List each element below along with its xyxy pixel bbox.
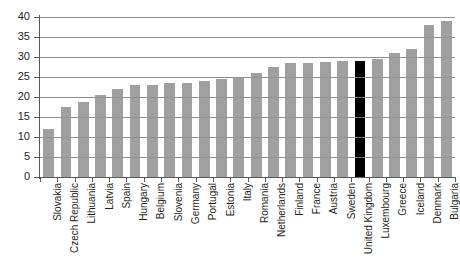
x-tick-label: Portugal [208,183,218,220]
bar [389,53,400,177]
bar [372,59,383,177]
x-tick-mark [40,178,41,182]
x-tick-mark [196,178,197,182]
x-tick-label: Lithuania [87,183,97,224]
x-tick-label: Czech Republic [70,183,80,253]
x-tick-mark [420,178,421,182]
x-tick-label: Latvia [105,183,115,210]
bar [268,67,279,177]
bar [216,79,227,177]
bar [441,21,452,177]
bar [199,81,210,177]
chart-title-cropped [0,0,460,10]
x-tick-label: Slovenia [174,183,184,221]
bar [78,102,89,177]
x-tick-label: Bulgaria [450,183,460,220]
y-tick-label: 30 [0,51,30,62]
x-tick-mark [299,178,300,182]
bar [251,73,262,177]
x-tick-mark [403,178,404,182]
bar-chart: 0510152025303540 SlovakiaCzech RepublicL… [0,0,460,264]
x-tick-mark [351,178,352,182]
y-tick-label: 15 [0,111,30,122]
y-tick-label: 10 [0,131,30,142]
x-tick-mark [334,178,335,182]
bar [95,95,106,177]
x-tick-mark [386,178,387,182]
x-tick-mark [455,178,456,182]
x-tick-label: Denmark [433,183,443,224]
bar-series [40,17,455,177]
y-tick-label: 0 [0,171,30,182]
y-tick-label: 20 [0,91,30,102]
x-tick-mark [178,178,179,182]
y-tick-label: 25 [0,71,30,82]
x-tick-label: Slovakia [53,183,63,221]
x-tick-mark [92,178,93,182]
x-tick-mark [282,178,283,182]
bar [233,78,244,177]
bar [337,61,348,177]
x-tick-label: Spain [122,183,132,209]
bar [147,85,158,177]
x-tick-label: Netherlands [277,183,287,237]
x-tick-label: United Kingdom [364,183,374,254]
x-tick-mark [57,178,58,182]
bar [406,49,417,177]
bar [320,62,331,177]
x-tick-label: Iceland [416,183,426,215]
y-tick-label: 35 [0,31,30,42]
x-axis-labels: SlovakiaCzech RepublicLithuaniaLatviaSpa… [40,183,455,263]
x-tick-mark [109,178,110,182]
x-tick-mark [438,178,439,182]
bar [61,107,72,177]
x-tick-label: Austria [329,183,339,214]
x-tick-label: Belgium [156,183,166,219]
x-tick-mark [161,178,162,182]
x-tick-mark [144,178,145,182]
x-tick-mark [75,178,76,182]
bar [303,63,314,177]
x-tick-label: Romania [260,183,270,223]
x-tick-mark [248,178,249,182]
x-tick-label: Finland [295,183,305,216]
x-tick-label: Germany [191,183,201,224]
x-tick-label: Italy [243,183,253,201]
y-tick-label: 5 [0,151,30,162]
x-tick-label: France [312,183,322,214]
bar [130,85,141,177]
x-tick-label: Estonia [226,183,236,216]
x-tick-mark [213,178,214,182]
x-tick-mark [369,178,370,182]
bar [285,63,296,177]
x-tick-mark [265,178,266,182]
bar [355,61,366,177]
x-tick-mark [317,178,318,182]
x-tick-label: Hungary [139,183,149,221]
bar [112,89,123,177]
bar [424,25,435,177]
bar [164,83,175,177]
x-tick-label: Sweden [347,183,357,219]
bar [43,129,54,177]
x-tick-label: Greece [398,183,408,216]
x-tick-label: Luxembourg [381,183,391,239]
x-tick-mark [230,178,231,182]
bar [182,83,193,177]
y-tick-label: 40 [0,11,30,22]
x-tick-mark [126,178,127,182]
